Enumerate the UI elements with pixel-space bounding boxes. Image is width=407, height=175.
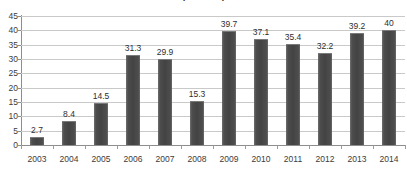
x-axis-tick-label: 2013 [348,154,367,164]
y-axis-tick-label: 5 [0,126,18,135]
bar[interactable] [62,121,76,145]
y-axis: 051015202530354045 [0,16,18,145]
bar-value-label: 37.1 [253,28,270,37]
bar[interactable] [286,44,300,145]
x-axis-tick [309,145,310,149]
bar-slot: 32.2 [309,16,341,145]
x-axis-tick-label: 2005 [92,154,111,164]
bar-value-label: 35.4 [285,33,302,42]
x-axis-tick [373,145,374,149]
bar[interactable] [190,101,204,145]
bar[interactable] [350,33,364,145]
y-axis-tick-label: 35 [0,40,18,49]
x-axis-tick [405,145,406,149]
bar-slot: 37.1 [245,16,277,145]
bar[interactable] [318,53,332,145]
bar-value-label: 32.2 [317,42,334,51]
bar[interactable] [30,137,44,145]
bar-slot: 40 [373,16,405,145]
bar-value-label: 8.4 [63,110,75,119]
x-axis-tick [149,145,150,149]
bar[interactable] [254,39,268,145]
x-axis: 2003200420052006200720082009201020112012… [21,154,405,168]
x-axis-tick-label: 2010 [252,154,271,164]
x-axis-tick-label: 2009 [220,154,239,164]
x-axis-tick-label: 2012 [316,154,335,164]
x-axis-tick-label: 2008 [188,154,207,164]
x-axis-tick [213,145,214,149]
y-axis-tick-label: 20 [0,83,18,92]
x-axis-tick [117,145,118,149]
x-axis-tick-label: 2007 [156,154,175,164]
bar-slot: 2.7 [21,16,53,145]
x-axis-tick-label: 2011 [284,154,302,164]
bar[interactable] [382,30,396,145]
y-axis-tick-label: 15 [0,98,18,107]
bar-series: 2.78.414.531.329.915.339.737.135.432.239… [21,16,405,145]
bar[interactable] [126,55,140,145]
bar[interactable] [222,31,236,145]
x-axis-tick-label: 2004 [60,154,79,164]
bar-slot: 14.5 [85,16,117,145]
bar-value-label: 2.7 [31,126,43,135]
x-axis-tick [245,145,246,149]
bar-slot: 35.4 [277,16,309,145]
bar-value-label: 39.2 [349,22,366,31]
bar-slot: 8.4 [53,16,85,145]
x-axis-tick [85,145,86,149]
x-axis-ticks [21,145,405,149]
bar-slot: 39.2 [341,16,373,145]
y-axis-tick-label: 40 [0,26,18,35]
bar-value-label: 40 [384,19,393,28]
bar-value-label: 15.3 [189,90,206,99]
x-axis-tick-label: 2014 [380,154,399,164]
bar-slot: 15.3 [181,16,213,145]
bar-value-label: 14.5 [93,92,110,101]
bar-chart: ($ Billion) 051015202530354045 2.78.414.… [0,0,407,175]
chart-title: ($ Billion) [0,0,407,1]
x-axis-tick-label: 2006 [124,154,143,164]
bar[interactable] [158,59,172,145]
bar[interactable] [94,103,108,145]
bar-value-label: 29.9 [157,48,174,57]
x-axis-tick-label: 2003 [28,154,47,164]
plot-area: 2.78.414.531.329.915.339.737.135.432.239… [21,16,405,145]
bar-slot: 29.9 [149,16,181,145]
y-axis-tick-label: 25 [0,69,18,78]
y-axis-tick-label: 0 [0,141,18,150]
bar-value-label: 39.7 [221,20,238,29]
x-axis-tick [181,145,182,149]
x-axis-tick [277,145,278,149]
bar-slot: 39.7 [213,16,245,145]
y-axis-tick-label: 45 [0,12,18,21]
y-axis-tick-label: 30 [0,55,18,64]
x-axis-tick [21,145,22,149]
x-axis-tick [341,145,342,149]
x-axis-tick [53,145,54,149]
y-axis-tick-label: 10 [0,112,18,121]
bar-slot: 31.3 [117,16,149,145]
bar-value-label: 31.3 [125,44,142,53]
